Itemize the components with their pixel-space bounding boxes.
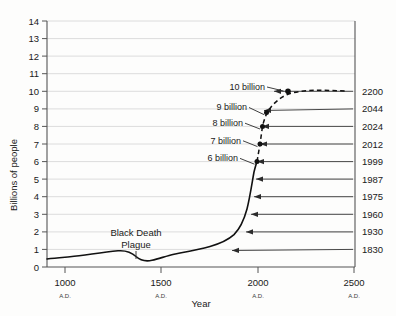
- year-label-2200: 2200: [362, 86, 383, 97]
- year-label-2012: 2012: [362, 139, 383, 150]
- y-tick-label: 1: [34, 244, 39, 255]
- chart-background: [0, 0, 396, 316]
- dot-10-billion: [285, 89, 291, 95]
- x-tick-sublabel: A.D.: [252, 293, 264, 299]
- dot-9-billion: [264, 110, 269, 115]
- x-tick-label: 1500: [150, 277, 171, 288]
- y-tick-label: 3: [34, 209, 39, 220]
- y-tick-label: 13: [28, 33, 39, 44]
- y-tick-label: 10: [28, 86, 39, 97]
- billion-label-10: 10 billion: [229, 82, 265, 92]
- year-label-1987: 1987: [362, 174, 383, 185]
- year-label-2024: 2024: [362, 121, 383, 132]
- black-death-line1: Black Death: [110, 227, 161, 238]
- dot-7-billion: [258, 142, 263, 147]
- black-death-line2: Plague: [121, 239, 151, 250]
- y-axis-title: Billions of people: [8, 139, 19, 211]
- billion-label-8: 8 billion: [212, 118, 243, 128]
- year-label-1830: 1830: [362, 244, 383, 255]
- y-tick-label: 7: [34, 139, 39, 150]
- year-label-1960: 1960: [362, 209, 383, 220]
- dot-8-billion: [260, 124, 265, 129]
- y-tick-label: 11: [29, 68, 39, 79]
- x-tick-label: 1000: [54, 277, 75, 288]
- chart-svg: 14 13 12 11 10 9 8 7 6 5 4 3 2 1 0 1000 …: [0, 0, 396, 316]
- y-tick-label: 6: [34, 156, 39, 167]
- year-label-2044: 2044: [362, 103, 383, 114]
- y-tick-label: 12: [28, 51, 39, 62]
- y-tick-label: 2: [34, 226, 39, 237]
- year-label-1975: 1975: [362, 191, 383, 202]
- dot-6-billion: [255, 159, 260, 164]
- billion-label-7: 7 billion: [210, 136, 241, 146]
- y-tick-label: 5: [34, 174, 39, 185]
- year-label-1999: 1999: [362, 156, 383, 167]
- x-tick-sublabel: A.D.: [59, 293, 71, 299]
- y-tick-label: 14: [28, 16, 39, 27]
- billion-label-6: 6 billion: [207, 153, 238, 163]
- billion-label-9: 9 billion: [216, 102, 247, 112]
- x-axis-title: Year: [191, 298, 210, 309]
- y-tick-label: 9: [34, 103, 39, 114]
- y-tick-label: 8: [34, 121, 39, 132]
- year-label-1930: 1930: [362, 226, 383, 237]
- population-growth-chart: 14 13 12 11 10 9 8 7 6 5 4 3 2 1 0 1000 …: [0, 0, 396, 316]
- x-tick-sublabel: A.D.: [348, 293, 360, 299]
- x-tick-sublabel: A.D.: [155, 293, 167, 299]
- y-tick-label: 4: [34, 191, 39, 202]
- x-tick-label: 2000: [247, 277, 268, 288]
- x-tick-label: 2500: [343, 277, 364, 288]
- y-tick-label: 0: [34, 262, 39, 273]
